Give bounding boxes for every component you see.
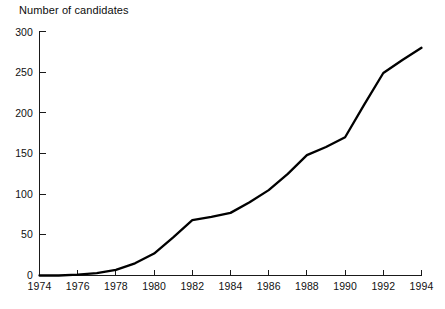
x-tick-label: 1986 — [257, 280, 281, 292]
x-tick-label: 1992 — [371, 280, 395, 292]
y-axis-ticks — [40, 32, 46, 276]
y-tick-label: 250 — [15, 66, 33, 78]
y-tick-label: 50 — [21, 228, 33, 240]
x-tick-label: 1994 — [410, 280, 434, 292]
y-tick-label: 150 — [15, 147, 33, 159]
x-tick-label: 1988 — [295, 280, 319, 292]
x-tick-label: 1980 — [142, 280, 166, 292]
y-axis-tick-labels: 300 250 200 150 100 50 0 — [15, 26, 33, 281]
axis-spine — [40, 31, 422, 276]
x-tick-label: 1984 — [219, 280, 243, 292]
chart-figure: Number of candidates 300 250 200 150 100… — [0, 0, 445, 309]
axis-lines — [40, 31, 422, 276]
x-tick-label: 1976 — [66, 280, 90, 292]
y-tick-label: 200 — [15, 107, 33, 119]
x-tick-label: 1982 — [180, 280, 204, 292]
x-tick-label: 1990 — [333, 280, 357, 292]
y-tick-label: 100 — [15, 188, 33, 200]
x-tick-label: 1974 — [28, 280, 52, 292]
data-series-line — [40, 48, 422, 276]
x-tick-label: 1978 — [104, 280, 128, 292]
y-tick-label: 300 — [15, 26, 33, 38]
line-chart-plot: 300 250 200 150 100 50 0 1974 1976 19 — [0, 0, 445, 309]
x-axis-tick-labels: 1974 1976 1978 1980 1982 1984 1986 1988 … — [28, 280, 434, 292]
